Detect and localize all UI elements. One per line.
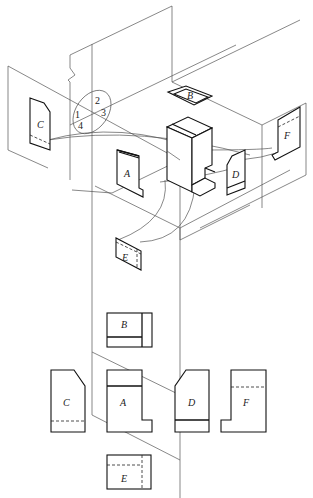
iso-label-f: F xyxy=(283,130,291,141)
isometric-view-a: A xyxy=(117,150,143,197)
quadrant-label-4: 4 xyxy=(78,120,83,131)
isometric-view-f: F xyxy=(272,107,300,160)
projection-diagram: 1 2 3 4 C A xyxy=(0,0,313,498)
flat-view-b: B xyxy=(107,313,152,347)
quadrant-label-3: 3 xyxy=(101,107,106,118)
isometric-view-e: E xyxy=(116,238,141,270)
isometric-solid xyxy=(167,117,215,196)
flat-label-d: D xyxy=(187,397,196,408)
flat-view-a: A xyxy=(107,370,152,432)
flat-views: B C A D F E xyxy=(51,313,266,489)
iso-label-d: D xyxy=(231,169,240,180)
flat-view-d: D xyxy=(175,370,209,432)
quadrant-label-2: 2 xyxy=(95,95,100,106)
flat-label-b: B xyxy=(121,319,127,330)
iso-label-e: E xyxy=(121,252,128,263)
isometric-view-c: C xyxy=(30,98,50,150)
flat-view-f: F xyxy=(221,370,266,432)
flat-label-a: A xyxy=(119,397,127,408)
flat-label-e: E xyxy=(120,473,127,484)
flat-label-f: F xyxy=(242,397,250,408)
quadrant-label-1: 1 xyxy=(75,109,80,120)
isometric-view-b: B xyxy=(168,86,212,105)
iso-label-b: B xyxy=(187,90,193,101)
iso-label-a: A xyxy=(123,168,131,179)
flat-view-c: C xyxy=(51,370,85,432)
isometric-view-d: D xyxy=(227,150,245,195)
flat-view-e: E xyxy=(107,455,151,489)
flat-label-c: C xyxy=(63,397,70,408)
back-plane xyxy=(68,6,300,415)
iso-label-c: C xyxy=(37,119,44,130)
